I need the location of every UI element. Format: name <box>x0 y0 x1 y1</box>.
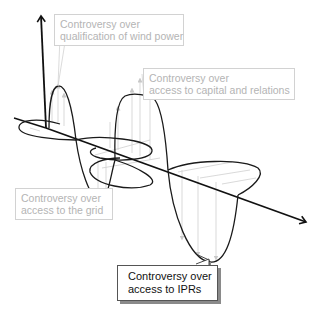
callout-pointers <box>58 36 152 206</box>
wave-diagram <box>0 0 322 310</box>
label-wind-power-line2: qualification of wind power <box>60 30 178 42</box>
projection-lines <box>30 80 256 258</box>
ellipse-wind-power <box>19 120 76 140</box>
label-iprs-line1: Controversy over <box>128 270 207 283</box>
label-capital-line1: Controversy over <box>149 72 289 84</box>
label-capital: Controversy over access to capital and r… <box>143 68 295 100</box>
label-grid-line2: access to the grid <box>21 204 107 216</box>
label-wind-power: Controversy over qualification of wind p… <box>54 14 184 46</box>
ellipse-middle <box>76 138 152 160</box>
lobe-wind-power <box>49 86 76 140</box>
vertical-axis <box>41 16 46 128</box>
label-capital-line2: access to capital and relations <box>149 84 289 96</box>
label-iprs-line2: access to IPRs <box>128 283 207 296</box>
label-grid-line1: Controversy over <box>21 192 107 204</box>
label-grid: Controversy over access to the grid <box>15 188 113 220</box>
label-iprs: Controversy over access to IPRs <box>117 265 218 301</box>
label-wind-power-line1: Controversy over <box>60 18 178 30</box>
